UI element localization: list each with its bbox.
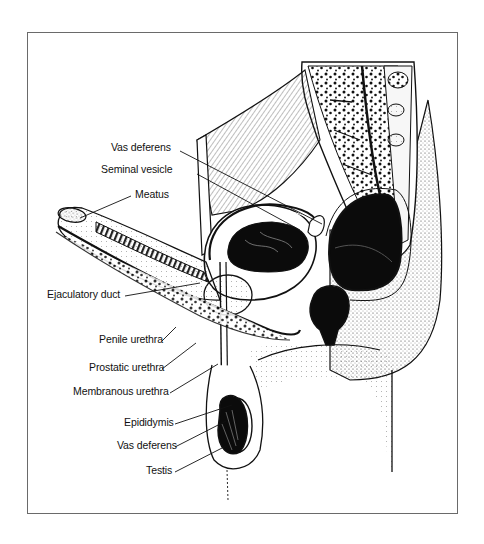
label-membranous-urethra: Membranous urethra xyxy=(73,385,169,397)
label-prostatic-urethra: Prostatic urethra xyxy=(89,361,164,373)
anatomy-drawing xyxy=(0,0,484,544)
label-epididymis: Epididymis xyxy=(124,416,174,428)
label-meatus: Meatus xyxy=(135,188,169,200)
label-seminal-vesicle: Seminal vesicle xyxy=(101,163,172,175)
label-testis: Testis xyxy=(146,464,172,476)
scrotum-testis xyxy=(206,365,263,500)
label-vas-deferens-lower: Vas deferens xyxy=(117,439,177,451)
label-ejaculatory-duct: Ejaculatory duct xyxy=(47,288,120,300)
label-vas-deferens-upper: Vas deferens xyxy=(111,141,171,153)
perineum-thigh xyxy=(250,342,393,472)
label-penile-urethra: Penile urethra xyxy=(99,333,163,345)
